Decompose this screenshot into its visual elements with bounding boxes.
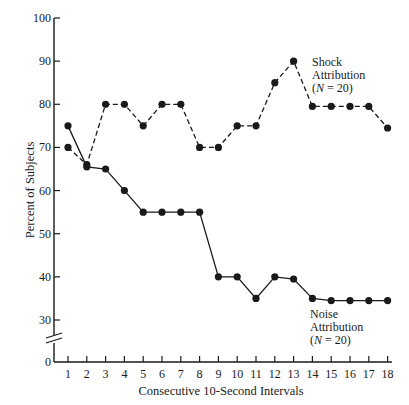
data-point xyxy=(271,79,278,86)
shock-label-line3: (N = 20) xyxy=(312,81,353,95)
shock-label-line1: Shock xyxy=(312,55,342,69)
x-tick-label: 14 xyxy=(306,367,318,381)
data-point xyxy=(328,103,335,110)
x-tick-label: 15 xyxy=(325,367,337,381)
x-tick-label: 4 xyxy=(121,367,127,381)
data-point xyxy=(290,275,297,282)
y-tick-label: 50 xyxy=(39,227,51,241)
x-tick-label: 9 xyxy=(215,367,221,381)
x-tick-label: 1 xyxy=(65,367,71,381)
x-tick-label: 11 xyxy=(250,367,262,381)
noise-label-line2: Attribution xyxy=(310,320,363,334)
data-point xyxy=(140,209,147,216)
data-point xyxy=(365,103,372,110)
data-point xyxy=(196,144,203,151)
data-point xyxy=(64,144,71,151)
data-point xyxy=(215,144,222,151)
noise-label-line3: (N = 20) xyxy=(310,333,351,347)
data-point xyxy=(290,58,297,65)
y-tick-label: 80 xyxy=(39,97,51,111)
x-tick-label: 7 xyxy=(178,367,184,381)
data-point xyxy=(158,209,165,216)
x-tick-label: 10 xyxy=(231,367,243,381)
x-ticks: 123456789101112131415161718 xyxy=(65,356,394,381)
x-tick-label: 5 xyxy=(140,367,146,381)
y-tick-label: 90 xyxy=(39,54,51,68)
data-point xyxy=(309,103,316,110)
data-point xyxy=(140,122,147,129)
y-tick-label: 40 xyxy=(39,270,51,284)
data-point xyxy=(384,124,391,131)
data-point xyxy=(64,122,71,129)
data-point xyxy=(384,297,391,304)
y-tick-label: 100 xyxy=(33,11,51,25)
data-point xyxy=(328,297,335,304)
series-noise-attribution xyxy=(64,122,391,304)
data-point xyxy=(83,163,90,170)
shock-label-line2: Attribution xyxy=(312,68,365,82)
data-point xyxy=(365,297,372,304)
data-point xyxy=(158,101,165,108)
data-point xyxy=(346,103,353,110)
x-tick-label: 8 xyxy=(197,367,203,381)
y-tick-label: 70 xyxy=(39,140,51,154)
data-point xyxy=(121,101,128,108)
series-line xyxy=(68,126,388,301)
data-point xyxy=(252,295,259,302)
data-point xyxy=(102,165,109,172)
x-axis-title: Consecutive 10-Second Intervals xyxy=(138,384,303,398)
data-point xyxy=(234,273,241,280)
line-chart: 030405060708090100 123456789101112131415… xyxy=(0,0,409,405)
data-point xyxy=(102,101,109,108)
x-tick-label: 2 xyxy=(84,367,90,381)
x-tick-label: 3 xyxy=(103,367,109,381)
noise-label-line1: Noise xyxy=(310,307,338,321)
data-point xyxy=(177,101,184,108)
x-tick-label: 13 xyxy=(288,367,300,381)
y-tick-label: 60 xyxy=(39,184,51,198)
x-tick-label: 18 xyxy=(382,367,394,381)
data-point xyxy=(196,209,203,216)
data-point xyxy=(121,187,128,194)
data-point xyxy=(177,209,184,216)
data-point xyxy=(252,122,259,129)
data-point xyxy=(309,295,316,302)
data-point xyxy=(271,273,278,280)
y-axis-title: Percent of Subjects xyxy=(23,142,37,239)
data-point xyxy=(234,122,241,129)
x-tick-label: 16 xyxy=(344,367,356,381)
x-tick-label: 6 xyxy=(159,367,165,381)
x-tick-label: 12 xyxy=(269,367,281,381)
data-point xyxy=(215,273,222,280)
y-tick-label: 0 xyxy=(45,355,51,369)
shock-annotation: Shock Attribution (N = 20) xyxy=(312,55,365,95)
y-ticks: 030405060708090100 xyxy=(33,11,60,369)
noise-annotation: Noise Attribution (N = 20) xyxy=(310,307,363,347)
x-tick-label: 17 xyxy=(363,367,375,381)
data-point xyxy=(346,297,353,304)
y-tick-label: 30 xyxy=(39,313,51,327)
